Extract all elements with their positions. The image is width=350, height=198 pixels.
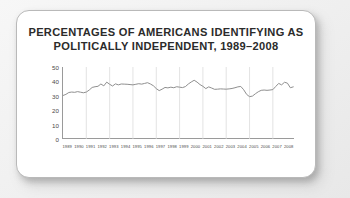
x-tick-label-1999: 1999 — [179, 144, 189, 149]
chart-card: PERCENTAGES OF AMERICANS IDENTIFYING AS … — [16, 10, 316, 178]
x-tick-label-1989: 1989 — [62, 144, 72, 149]
plot-area — [62, 67, 294, 139]
y-tick-label-20: 20 — [52, 107, 59, 114]
y-tick-label-30: 30 — [52, 92, 59, 99]
x-tick-label-1994: 1994 — [121, 144, 131, 149]
series-line-politically-independent — [63, 80, 293, 96]
x-tick-label-2008: 2008 — [284, 144, 294, 149]
x-tick-label-1997: 1997 — [156, 144, 166, 149]
x-tick-label-2002: 2002 — [214, 144, 224, 149]
x-tick-label-1998: 1998 — [167, 144, 177, 149]
x-tick-label-1993: 1993 — [109, 144, 119, 149]
page-background: PERCENTAGES OF AMERICANS IDENTIFYING AS … — [0, 0, 350, 198]
x-tick-label-1996: 1996 — [144, 144, 154, 149]
x-tick-label-2005: 2005 — [249, 144, 259, 149]
x-tick-label-2006: 2006 — [261, 144, 271, 149]
x-tick-label-1991: 1991 — [86, 144, 96, 149]
plot-wrapper: 01020304050 1989199019911992199319941995… — [62, 67, 294, 139]
chart-title-line-1: PERCENTAGES OF AMERICANS IDENTIFYING AS — [17, 25, 315, 39]
x-tick-label-2004: 2004 — [237, 144, 247, 149]
gridlines — [86, 67, 273, 139]
chart-title-line-2: POLITICALLY INDEPENDENT, 1989–2008 — [17, 39, 315, 53]
y-tick-label-0: 0 — [56, 136, 59, 143]
chart-area: 01020304050 1989199019911992199319941995… — [36, 67, 298, 167]
y-tick-label-10: 10 — [52, 121, 59, 128]
x-tick-label-2007: 2007 — [272, 144, 282, 149]
line-chart-svg — [63, 67, 295, 139]
x-tick-label-1995: 1995 — [132, 144, 142, 149]
y-tick-label-50: 50 — [52, 64, 59, 71]
x-tick-label-1990: 1990 — [74, 144, 84, 149]
x-tick-label-2003: 2003 — [226, 144, 236, 149]
chart-title: PERCENTAGES OF AMERICANS IDENTIFYING AS … — [17, 25, 315, 53]
x-tick-label-2000: 2000 — [191, 144, 201, 149]
y-tick-label-40: 40 — [52, 78, 59, 85]
x-tick-label-1992: 1992 — [97, 144, 107, 149]
x-tick-label-2001: 2001 — [202, 144, 212, 149]
